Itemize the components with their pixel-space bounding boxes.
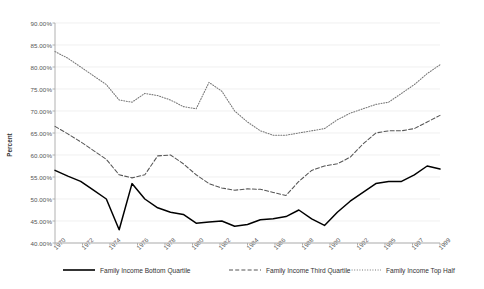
series-line (55, 52, 440, 136)
chart-plot-area (0, 0, 484, 289)
legend-line-icon (62, 266, 96, 274)
series-line (55, 115, 440, 195)
chart-legend: Family Income Bottom QuartileFamily Inco… (0, 266, 484, 286)
legend-label: Family Income Bottom Quartile (100, 267, 191, 274)
legend-item[interactable]: Family Income Top Half (348, 266, 455, 274)
legend-line-icon (348, 266, 382, 274)
series-line (55, 166, 440, 230)
legend-label: Family Income Third Quartile (266, 267, 351, 274)
legend-item[interactable]: Family Income Third Quartile (228, 266, 351, 274)
legend-label: Family Income Top Half (386, 267, 455, 274)
legend-line-icon (228, 266, 262, 274)
legend-item[interactable]: Family Income Bottom Quartile (62, 266, 191, 274)
chart-container: Percent 40.00%45.00%50.00%55.00%60.00%65… (0, 0, 484, 289)
